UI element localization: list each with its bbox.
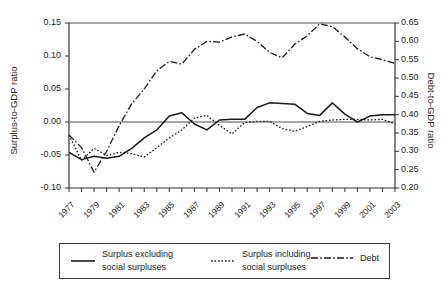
legend-line-sample xyxy=(310,252,354,264)
legend-item-label: Surplus including social surpluses xyxy=(242,248,311,273)
series-line xyxy=(69,103,395,160)
legend-line-sample xyxy=(70,255,96,267)
legend-item-label: Debt xyxy=(360,252,379,265)
legend-item: Debt xyxy=(310,248,379,266)
legend-line-sample xyxy=(210,255,236,267)
chart-legend: Surplus excluding social surplusesSurplu… xyxy=(59,243,390,279)
legend-item-label: Surplus excluding social surpluses xyxy=(102,248,173,273)
legend-item: Surplus excluding social surpluses xyxy=(70,248,173,273)
legend-item: Surplus including social surpluses xyxy=(210,248,311,273)
series-line xyxy=(69,24,395,173)
chart-figure: Surplus-to-GDP ratio Debt-to-GDP ratio 0… xyxy=(0,0,446,286)
